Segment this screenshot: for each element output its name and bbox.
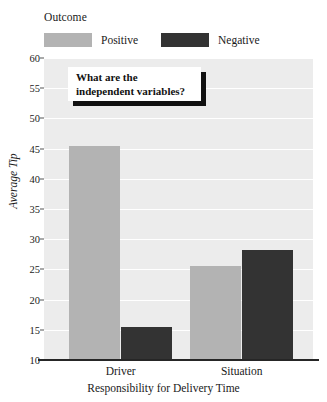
- legend-swatch-positive: [44, 33, 92, 47]
- plot-area: [44, 58, 313, 360]
- y-axis-tick-label: 35: [0, 204, 40, 215]
- x-axis-tick-driver: Driver: [106, 365, 136, 377]
- legend-label-negative: Negative: [218, 34, 260, 46]
- legend-title: Outcome: [44, 11, 87, 23]
- y-axis-tick-label: 45: [0, 143, 40, 154]
- y-axis-tick-mark: [40, 178, 44, 179]
- legend-swatch-negative: [161, 33, 209, 47]
- gridline: [44, 58, 313, 59]
- bar-driver-positive: [69, 146, 120, 360]
- y-axis-tick-label: 40: [0, 173, 40, 184]
- y-axis-tick-label: 10: [0, 355, 40, 366]
- y-axis-tick-label: 25: [0, 264, 40, 275]
- y-axis-tick-label: 30: [0, 234, 40, 245]
- y-axis-tick-mark: [40, 88, 44, 89]
- bar-situation-positive: [190, 266, 241, 360]
- y-axis-tick-label: 20: [0, 294, 40, 305]
- y-axis-tick-mark: [40, 148, 44, 149]
- y-axis-tick-mark: [40, 118, 44, 119]
- legend-item-negative: Negative: [161, 31, 260, 49]
- y-axis-tick-mark: [40, 299, 44, 300]
- bar-chart-figure: Outcome Positive Negative 10152025303540…: [0, 0, 327, 402]
- x-axis-line: [38, 359, 319, 361]
- y-axis-tick-mark: [40, 239, 44, 240]
- y-axis-tick-label: 15: [0, 324, 40, 335]
- callout-box: What are the independent variables?: [68, 67, 201, 101]
- y-axis-tick-mark: [40, 209, 44, 210]
- callout-text: What are the independent variables?: [76, 71, 193, 98]
- y-axis-tick-mark: [40, 58, 44, 59]
- y-axis-tick-mark: [40, 329, 44, 330]
- bar-situation-negative: [242, 250, 293, 360]
- x-axis-tick-situation: Situation: [221, 365, 263, 377]
- legend: Positive Negative: [44, 31, 304, 49]
- y-axis-ticks: 1015202530354045505560: [0, 58, 40, 360]
- y-axis-label: Average Tip: [7, 121, 19, 241]
- y-axis-tick-label: 50: [0, 113, 40, 124]
- y-axis-tick-mark: [40, 269, 44, 270]
- x-axis-label: Responsibility for Delivery Time: [0, 382, 327, 394]
- y-axis-tick-label: 55: [0, 83, 40, 94]
- y-axis-tick-label: 60: [0, 53, 40, 64]
- bar-driver-negative: [121, 327, 172, 360]
- legend-label-positive: Positive: [101, 34, 138, 46]
- gridline: [44, 118, 313, 119]
- legend-item-positive: Positive: [44, 31, 138, 49]
